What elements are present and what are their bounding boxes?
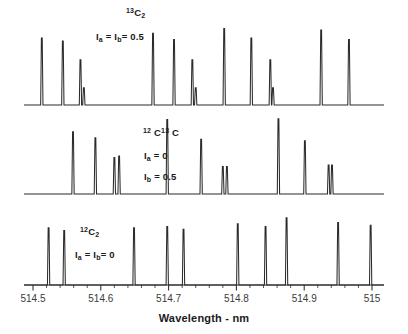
panel-middle-spin-label-1: Ia = 0 [144, 150, 168, 162]
x-tick-label: 514.6 [88, 293, 113, 304]
x-tick-label: 514.7 [156, 293, 181, 304]
panel-top-spin-label: Ia = Ib= 0.5 [96, 31, 144, 43]
panel-middle-species-label: 12 C13 C [143, 127, 179, 138]
x-tick-label: 514.8 [224, 293, 249, 304]
x-tick-label: 514.9 [292, 293, 317, 304]
axis-title: Wavelength - nm [0, 312, 408, 324]
spectrum-trace-top [24, 29, 384, 105]
x-tick-label: 515 [364, 293, 381, 304]
x-tick-label: 514.5 [20, 293, 45, 304]
spectra-figure: 13C2 Ia = Ib= 0.5 12 C13 C Ia = 0 Ib = 0… [0, 0, 408, 334]
panel-top-species-label: 13C2 [126, 7, 145, 19]
spectra-canvas [0, 0, 408, 334]
panel-bottom-spin-label: Ia = Ib= 0 [75, 249, 115, 261]
panel-bottom-species-label: 12C2 [80, 226, 99, 238]
panel-middle-spin-label-2: Ib = 0.5 [144, 171, 177, 183]
spectrum-trace-middle [24, 119, 384, 194]
